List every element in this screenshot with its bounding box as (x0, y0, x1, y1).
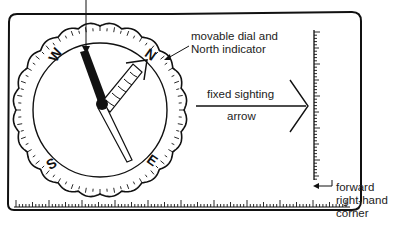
dial-label-leader (168, 46, 189, 58)
corner-label-line-2: right-hand (336, 194, 388, 207)
dial-label: movable dial and North indicator (191, 30, 278, 56)
dial-label-line-2: North indicator (191, 43, 278, 56)
corner-label: forward right-hand corner (336, 181, 388, 220)
sighting-label-line-2: arrow (227, 110, 256, 123)
sighting-label-line-1: fixed sighting (207, 88, 274, 101)
corner-label-line-3: corner (336, 207, 388, 220)
corner-label-line-1: forward (336, 181, 388, 194)
dial-label-line-1: movable dial and (191, 30, 278, 43)
